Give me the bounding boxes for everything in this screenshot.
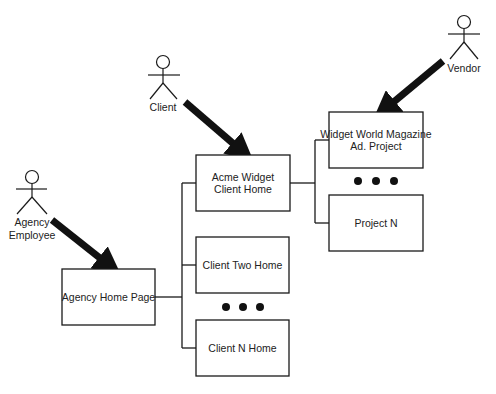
node-label-line1: Widget World Magazine — [320, 128, 431, 140]
node-client-two[interactable]: Client Two Home — [196, 237, 289, 293]
node-label: Client Two Home — [203, 259, 283, 271]
site-structure-diagram: Agency Employee Client Vendor Agency Hom… — [0, 0, 496, 394]
node-label: Client N Home — [208, 342, 276, 354]
node-label-line2: Client Home — [214, 183, 272, 195]
actor-vendor — [448, 16, 480, 60]
node-label-line2: Ad. Project — [350, 140, 401, 152]
node-client-n[interactable]: Client N Home — [196, 320, 289, 376]
arrow-client-to-acme — [185, 102, 243, 152]
node-label: Agency Home Page — [62, 291, 156, 303]
stick-figure-icon — [458, 16, 471, 29]
actor-label-employee: Employee — [9, 229, 56, 241]
projects-ellipsis-icon — [354, 177, 398, 185]
clients-ellipsis-icon — [222, 303, 264, 311]
actor-client — [148, 56, 180, 100]
node-agency-home[interactable]: Agency Home Page — [62, 269, 156, 325]
actor-label-vendor: Vendor — [447, 62, 481, 74]
arrow-agency-to-home — [52, 220, 110, 266]
node-label-line1: Acme Widget — [212, 171, 275, 183]
node-label: Project N — [354, 217, 397, 229]
node-widget-world[interactable]: Widget World Magazine Ad. Project — [320, 112, 431, 168]
node-project-n[interactable]: Project N — [329, 195, 423, 251]
actor-label-agency: Agency — [14, 216, 50, 228]
actor-agency-employee — [16, 171, 47, 215]
arrow-vendor-to-widget — [384, 61, 443, 110]
stick-figure-icon — [26, 171, 39, 184]
actor-label-client: Client — [150, 101, 177, 113]
stick-figure-icon — [157, 56, 170, 69]
node-acme-widget[interactable]: Acme Widget Client Home — [196, 155, 290, 211]
